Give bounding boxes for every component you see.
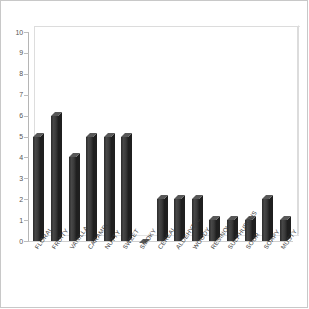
bar-side-face: [58, 112, 62, 241]
bar: [262, 199, 269, 241]
bar: [69, 157, 76, 241]
bar-chart: 012345678910 FLORALFRUITYVANILLACARAMELN…: [0, 0, 309, 309]
bar-side-face: [40, 133, 44, 242]
bar-side-face: [128, 133, 132, 242]
bar: [33, 137, 40, 242]
bar: [121, 137, 128, 242]
bar-side-face: [93, 133, 97, 242]
bar: [157, 199, 164, 241]
bar-series: [0, 0, 309, 309]
bar: [174, 199, 181, 241]
bar: [86, 137, 93, 242]
bar-side-face: [76, 153, 80, 241]
bar-side-face: [111, 133, 115, 242]
bar: [51, 116, 58, 241]
